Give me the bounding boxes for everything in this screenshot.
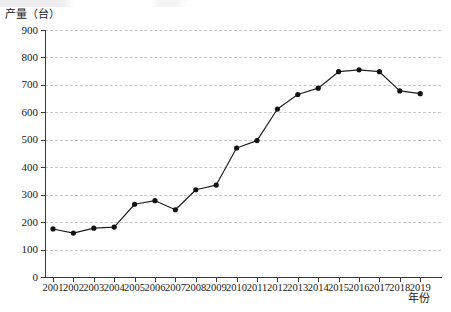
data-point: 2017: 748 <box>377 69 382 74</box>
data-point: 2003: 178 <box>91 226 96 231</box>
data-point: 2008: 318 <box>193 187 198 192</box>
data-point: 2011: 497 <box>254 138 259 143</box>
data-point: 2012: 612 <box>275 106 280 111</box>
production-line-chart: 产量（台） 0100200300400500600700800900 20012… <box>0 0 451 312</box>
data-point: 2006: 278 <box>152 198 157 203</box>
data-point: 2018: 678 <box>397 88 402 93</box>
data-point: 2015: 748 <box>336 69 341 74</box>
data-point: 2004: 182 <box>112 224 117 229</box>
data-point: 2009: 335 <box>214 182 219 187</box>
data-point: 2016: 755 <box>356 67 361 72</box>
data-point: 2013: 665 <box>295 92 300 97</box>
data-point: 2019: 668 <box>418 91 423 96</box>
data-point: 2014: 688 <box>316 86 321 91</box>
data-point: 2002: 160 <box>71 230 76 235</box>
data-point: 2010: 470 <box>234 145 239 150</box>
data-point: 2001: 175 <box>50 226 55 231</box>
series-line <box>53 70 420 233</box>
data-point: 2005: 265 <box>132 202 137 207</box>
data-point: 2007: 245 <box>173 207 178 212</box>
x-axis-title: 年份 <box>408 292 430 305</box>
data-series-layer: 2001: 1752002: 1602003: 1782004: 1822005… <box>0 0 451 312</box>
